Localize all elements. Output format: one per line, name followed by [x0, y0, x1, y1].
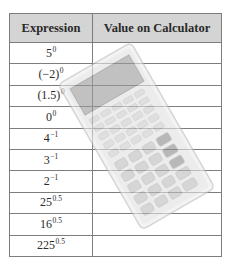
header-value-on-calculator: Value on Calculator — [93, 14, 222, 43]
table-row: 50 — [10, 43, 222, 64]
value-cell[interactable] — [93, 128, 222, 149]
expression-cell: (1.5)0 — [10, 85, 93, 106]
value-cell[interactable] — [93, 214, 222, 235]
table-row: 2250.5 — [10, 235, 222, 256]
expression-cell: (−2)0 — [10, 64, 93, 85]
value-cell[interactable] — [93, 149, 222, 170]
value-cell[interactable] — [93, 192, 222, 213]
table-row: 2−1 — [10, 171, 222, 192]
expression-cell: 250.5 — [10, 192, 93, 213]
table-row: 4−1 — [10, 128, 222, 149]
table-row: 00 — [10, 107, 222, 128]
header-expression: Expression — [10, 14, 93, 43]
table-row: (−2)0 — [10, 64, 222, 85]
table-row: (1.5)0 — [10, 85, 222, 106]
expression-cell: 160.5 — [10, 214, 93, 235]
expression-cell: 4−1 — [10, 128, 93, 149]
value-cell[interactable] — [93, 235, 222, 256]
table-row: 160.5 — [10, 214, 222, 235]
table-row: 250.5 — [10, 192, 222, 213]
expression-cell: 50 — [10, 43, 93, 64]
value-cell[interactable] — [93, 107, 222, 128]
expression-table: Expression Value on Calculator 50 (−2)0 … — [9, 13, 222, 257]
expression-cell: 00 — [10, 107, 93, 128]
value-cell[interactable] — [93, 171, 222, 192]
value-cell[interactable] — [93, 64, 222, 85]
expression-cell: 3−1 — [10, 149, 93, 170]
expression-cell: 2−1 — [10, 171, 93, 192]
table-row: 3−1 — [10, 149, 222, 170]
expression-cell: 2250.5 — [10, 235, 93, 256]
value-cell[interactable] — [93, 43, 222, 64]
value-cell[interactable] — [93, 85, 222, 106]
table-header-row: Expression Value on Calculator — [10, 14, 222, 43]
